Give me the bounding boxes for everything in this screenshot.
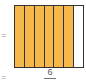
- numerator: 6: [47, 67, 52, 77]
- fraction-grid: [14, 5, 84, 68]
- shaded-cell: [64, 6, 74, 67]
- fraction-label: 6: [44, 68, 56, 79]
- equals-sign: =: [1, 31, 6, 40]
- shaded-cell: [15, 6, 25, 67]
- empty-cell: [74, 6, 83, 67]
- equals-sign-bottom: =: [1, 73, 6, 82]
- shaded-cell: [45, 6, 55, 67]
- shaded-cell: [25, 6, 35, 67]
- shaded-cell: [54, 6, 64, 67]
- shaded-cell: [35, 6, 45, 67]
- fraction-bar: [44, 78, 56, 79]
